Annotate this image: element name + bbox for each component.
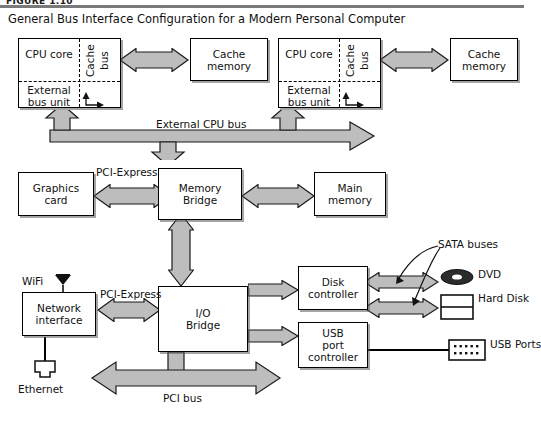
io-bridge-line2: Bridge [186, 319, 220, 331]
cpu1-internal-hook-arrow [81, 83, 111, 107]
cpu1-divider-horizontal [19, 81, 120, 82]
memory-bridge-block[interactable]: Memory Bridge [158, 168, 242, 220]
cpu2-external-bus-unit-label: External bus unit [279, 84, 339, 108]
cpu1-cache-bus-line2: bus [98, 52, 110, 71]
cpu1-cache-bus-line1: Cache [84, 45, 96, 78]
disk-controller-block[interactable]: Disk controller [298, 266, 368, 310]
cpu2-cache-bus-label2: bus [359, 42, 370, 80]
cpu1-ebu-line1: External [27, 84, 71, 96]
usb-ports-line1: USB [490, 338, 512, 350]
graphics-card-block[interactable]: Graphics card [18, 172, 94, 216]
hard-disk-icon [440, 294, 474, 320]
memory-bridge-line1: Memory [179, 182, 222, 194]
usb-port-controller-block[interactable]: USB port controller [298, 322, 368, 368]
network-pcie-arrow [96, 298, 162, 322]
cpu1-core-line1: CPU [25, 48, 46, 60]
header-divider [0, 5, 524, 8]
cpu2-cache-bus-line1: Cache [344, 45, 356, 78]
cpu2-ebu-line1: External [287, 84, 331, 96]
cpu2-cache-bus-line2: bus [358, 52, 370, 71]
cpu2-core-line2: core [310, 48, 333, 60]
bridge-interconnect-arrow [168, 212, 194, 288]
usb-controller-line1: USB [308, 327, 358, 339]
hard-disk-label: Hard Disk [478, 292, 529, 304]
network-interface-line1: Network [36, 302, 83, 314]
memory-bridge-line2: Bridge [179, 194, 222, 206]
graphics-card-line2: card [33, 194, 79, 206]
cache-memory-1-line2: memory [207, 60, 251, 72]
external-cpu-bus-label: External CPU bus [156, 118, 246, 130]
cache-memory-2[interactable]: Cache memory [450, 38, 518, 81]
cpu2-divider-vertical [339, 39, 340, 107]
cache-memory-2-line1: Cache [462, 48, 506, 60]
main-memory-line1: Main [328, 182, 372, 194]
io-bridge-line1: I/O [186, 307, 220, 319]
disk-controller-line1: Disk [308, 276, 358, 288]
cpu2-core-label: CPU core [279, 48, 339, 60]
cpu1-cache-bus-arrow [118, 48, 190, 72]
cpu2-internal-hook-arrow [341, 83, 371, 107]
usb-controller-line2: port [308, 339, 358, 351]
ethernet-jack-icon [32, 360, 58, 380]
sata-buses-label: SATA buses [438, 238, 498, 250]
pci-express-graphics-label: PCI-Express [96, 166, 158, 178]
usb-connector-line [368, 349, 450, 351]
dvd-disc-icon [440, 268, 474, 286]
cache-memory-2-line2: memory [462, 60, 506, 72]
disk-controller-line2: controller [308, 288, 358, 300]
main-memory-line2: memory [328, 194, 372, 206]
cpu2-cache-bus-label: Cache [345, 42, 356, 80]
pci-express-network-label: PCI-Express [100, 288, 162, 300]
usb-ports-label: USB Ports [490, 338, 541, 350]
ethernet-label: Ethernet [18, 383, 63, 395]
io-to-disk-arrow [248, 280, 300, 300]
io-to-usb-arrow [248, 326, 300, 346]
cpu2-core-line1: CPU [285, 48, 306, 60]
cpu-block-2[interactable]: CPU core Cache bus External bus unit [278, 38, 381, 108]
graphics-card-line1: Graphics [33, 182, 79, 194]
cpu2-cache-bus-arrow [378, 48, 450, 72]
cpu-block-1[interactable]: CPU core Cache bus External bus unit [18, 38, 121, 108]
cpu2-ebu-line2: bus unit [288, 96, 330, 108]
wifi-antenna-icon [52, 272, 74, 294]
pci-bus-label: PCI bus [163, 392, 202, 404]
sata-callout-lines [360, 240, 450, 310]
usb-ports-line2: Ports [515, 338, 541, 350]
dvd-label: DVD [478, 268, 501, 280]
main-memory-arrow [240, 184, 316, 208]
cpu1-core-label: CPU core [19, 48, 79, 60]
network-interface-line2: interface [36, 314, 83, 326]
hard-disk-line1: Hard [478, 292, 503, 304]
cpu1-external-bus-unit-label: External bus unit [19, 84, 79, 108]
usb-controller-line3: controller [308, 351, 358, 363]
cpu1-divider-vertical [79, 39, 80, 107]
cpu1-cache-bus-label2: bus [99, 42, 110, 80]
cache-memory-1-line1: Cache [207, 48, 251, 60]
wifi-label: WiFi [22, 275, 43, 287]
usb-ports-icon [448, 339, 486, 361]
main-memory-block[interactable]: Main memory [314, 172, 386, 216]
network-interface-block[interactable]: Network interface [22, 292, 96, 336]
cpu1-ebu-line2: bus unit [28, 96, 70, 108]
cache-memory-1[interactable]: Cache memory [190, 38, 268, 81]
cpu1-cache-bus-label: Cache [85, 42, 96, 80]
io-bridge-block[interactable]: I/O Bridge [158, 286, 248, 352]
hard-disk-line2: Disk [506, 292, 529, 304]
cpu1-core-line2: core [50, 48, 73, 60]
figure-title: General Bus Interface Configuration for … [8, 12, 405, 26]
cpu2-divider-horizontal [279, 81, 380, 82]
